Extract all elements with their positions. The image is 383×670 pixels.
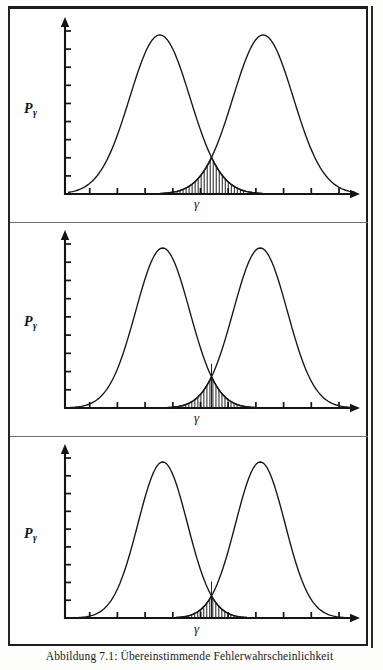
y-axis-label-1: Pγ xyxy=(24,101,37,118)
x-axis-label-3: γ xyxy=(194,621,199,637)
plot-panel-2: Pγ γ xyxy=(10,222,368,436)
y-axis-label-base-3: P xyxy=(24,526,33,541)
figure-caption: Abbildung 7.1: Übereinstimmende Fehlerwa… xyxy=(8,650,371,662)
y-axis-label-sub-2: γ xyxy=(33,321,37,331)
overlap-hatch-region xyxy=(177,160,243,194)
x-axis-label-2: γ xyxy=(194,410,199,426)
caption-band: Abbildung 7.1: Übereinstimmende Fehlerwa… xyxy=(8,650,371,670)
plot-canvas-1 xyxy=(10,9,368,222)
y-axis-label-base-2: P xyxy=(24,314,33,329)
y-axis-label-base-1: P xyxy=(24,101,33,116)
x-axis-label-1: γ xyxy=(194,196,199,212)
curve-distribution-right xyxy=(68,35,355,194)
y-axis-label-3: Pγ xyxy=(24,526,37,543)
plot-canvas-3 xyxy=(10,436,368,646)
y-axis-label-2: Pγ xyxy=(24,314,37,331)
y-axis-label-sub-1: γ xyxy=(33,108,37,118)
frame-rule-right xyxy=(371,6,373,648)
plot-panel-3: Pγ γ xyxy=(10,436,368,646)
figure-page: Pγ γ Pγ γ Pγ γ Abbildung 7.1: Übereinsti… xyxy=(0,0,383,670)
figure-frame: Pγ γ Pγ γ Pγ γ xyxy=(8,6,368,646)
plot-canvas-2 xyxy=(10,222,368,436)
plot-panel-1: Pγ γ xyxy=(10,9,368,222)
curve-distribution-left xyxy=(68,35,355,194)
y-axis-label-sub-3: γ xyxy=(33,533,37,543)
